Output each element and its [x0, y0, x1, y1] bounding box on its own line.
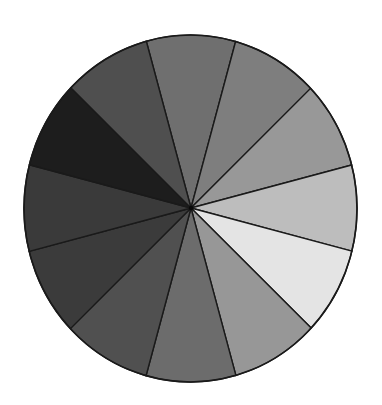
center-point — [189, 206, 193, 210]
gray-wheel — [0, 0, 382, 405]
figure-canvas — [0, 0, 382, 405]
